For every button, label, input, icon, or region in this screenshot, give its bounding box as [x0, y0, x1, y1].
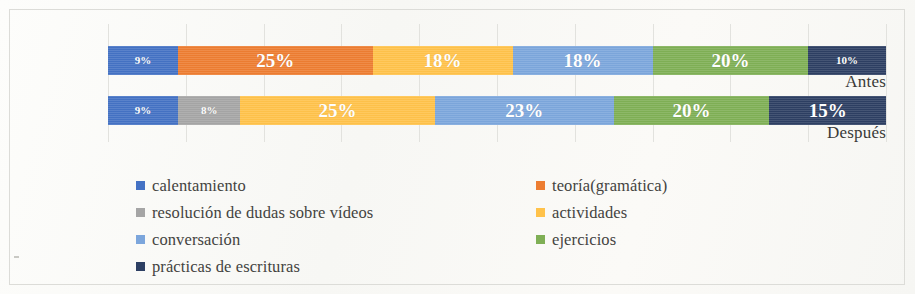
- bar-segment-value: 18%: [424, 51, 462, 70]
- legend-label: prácticas de escrituras: [152, 257, 300, 277]
- bar-segment: 25%: [178, 46, 373, 75]
- bar-segment: 8%: [178, 96, 240, 125]
- category-label-despues: Después: [790, 123, 886, 143]
- category-label-antes: Antes: [790, 72, 886, 92]
- bar-segment: 18%: [513, 46, 653, 75]
- page-edge-mark: [14, 256, 19, 258]
- bar-segment: 15%: [769, 96, 886, 125]
- bar-segment: 10%: [808, 46, 886, 75]
- bar-segment: 23%: [435, 96, 614, 125]
- legend-item[interactable]: prácticas de escrituras: [136, 253, 536, 280]
- bar-segment: 9%: [108, 46, 178, 75]
- bar-segment-value: 10%: [836, 55, 858, 66]
- legend-swatch-icon: [136, 181, 145, 190]
- legend-label: ejercicios: [552, 230, 616, 250]
- gridline: [886, 24, 887, 142]
- legend-item[interactable]: ejercicios: [536, 226, 836, 253]
- legend-swatch-icon: [136, 262, 145, 271]
- bar-segment-value: 25%: [256, 51, 294, 70]
- bar-segment: 20%: [614, 96, 770, 125]
- legend-swatch-icon: [136, 208, 145, 217]
- legend-item[interactable]: calentamiento: [136, 172, 536, 199]
- bar-segment-value: 20%: [672, 101, 710, 120]
- bar-segment-value: 15%: [809, 101, 847, 120]
- chart-legend: calentamientoresolución de dudas sobre v…: [136, 172, 836, 280]
- bar-segment: 18%: [373, 46, 513, 75]
- legend-label: resolución de dudas sobre vídeos: [152, 203, 373, 223]
- bar-segment: 20%: [653, 46, 809, 75]
- bar-segment-value: 23%: [505, 101, 543, 120]
- legend-swatch-icon: [136, 235, 145, 244]
- stacked-bar-antes: 9%25%18%18%20%10%: [108, 46, 886, 75]
- bar-segment-value: 9%: [135, 105, 152, 116]
- stacked-bar-despues: 9%8%25%23%20%15%: [108, 96, 886, 125]
- legend-item[interactable]: teoría(gramática): [536, 172, 836, 199]
- legend-swatch-icon: [536, 181, 545, 190]
- bar-segment-value: 9%: [135, 55, 152, 66]
- legend-item[interactable]: actividades: [536, 199, 836, 226]
- legend-swatch-icon: [536, 208, 545, 217]
- legend-swatch-icon: [536, 235, 545, 244]
- bar-segment: 25%: [240, 96, 435, 125]
- legend-label: actividades: [552, 203, 627, 223]
- bar-segment-value: 20%: [711, 51, 749, 70]
- bar-segment: 9%: [108, 96, 178, 125]
- legend-label: conversación: [152, 230, 240, 250]
- legend-label: teoría(gramática): [552, 176, 667, 196]
- plot-area: Antes Después 9%25%18%18%20%10% 9%8%25%2…: [108, 24, 886, 142]
- legend-label: calentamiento: [152, 176, 246, 196]
- legend-item[interactable]: conversación: [136, 226, 536, 253]
- bar-segment-value: 25%: [319, 101, 357, 120]
- legend-item[interactable]: resolución de dudas sobre vídeos: [136, 199, 536, 226]
- bar-segment-value: 8%: [201, 105, 218, 116]
- bar-segment-value: 18%: [564, 51, 602, 70]
